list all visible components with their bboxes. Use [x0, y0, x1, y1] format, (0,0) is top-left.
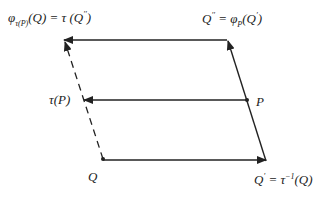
- parallelogram-diagram: φτ(P)(Q) = τ (Q′′) Q′′ = φP(Q′) τ(P) P Q…: [0, 0, 327, 197]
- label-top-left: φτ(P)(Q) = τ (Q′′): [8, 10, 91, 28]
- point-p: [245, 98, 249, 102]
- label-bottom-right: Q′ = τ−1(Q): [254, 172, 313, 187]
- label-tau-p: τ(P): [49, 92, 70, 107]
- point-q: [101, 157, 105, 161]
- label-p: P: [255, 94, 264, 109]
- label-top-right: Q′′ = φP(Q′): [202, 11, 262, 29]
- label-q: Q: [88, 169, 98, 184]
